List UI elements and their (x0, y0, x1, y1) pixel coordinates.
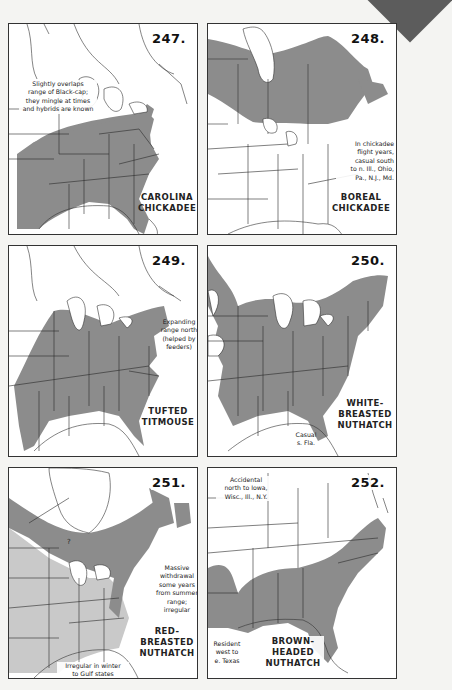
map-panel-white-breasted-nuthatch: 250. Casual s. Fla. WHITE- BREASTED NUTH… (207, 245, 397, 457)
title-line: BREASTED (334, 409, 396, 420)
note-line: Accidental (216, 476, 276, 484)
map-panel-brown-headed-nuthatch: 252. Accidental north to Iowa, Wisc., Il… (207, 467, 397, 679)
species-number: 248. (350, 31, 386, 46)
note-line: flight years, (336, 148, 394, 156)
note-line: casual south (336, 157, 394, 165)
species-number: 249. (151, 253, 187, 268)
note-line: withdrawal (155, 572, 198, 580)
note-line: Irregular in winter (57, 662, 129, 670)
title-line: HEADED (262, 647, 324, 658)
note-line: In chickadee (336, 140, 394, 148)
accidental-range-note: Accidental north to Iowa, Wisc., Ill., N… (216, 476, 276, 501)
note-line: they mingle at times (19, 97, 97, 105)
note-line: Pa., N.J., Md. (336, 174, 394, 182)
species-title: TUFTED TITMOUSE (139, 406, 197, 428)
note-line: range of Black-cap; (19, 88, 97, 96)
title-line: BREASTED (137, 637, 197, 648)
note-line: feeders) (159, 343, 198, 351)
note-line: s. Fla. (288, 439, 324, 447)
title-line: NUTHATCH (334, 420, 396, 431)
note-line: irregular (155, 606, 198, 614)
map-panel-red-breasted-nuthatch: 251. ? Massive withdrawal some years fro… (8, 467, 198, 679)
species-number: 247. (151, 31, 187, 46)
range-note: In chickadee flight years, casual south … (336, 140, 394, 182)
title-line: BOREAL (326, 192, 396, 203)
note-line: Wisc., Ill., N.Y. (216, 493, 276, 501)
title-line: BROWN- (262, 636, 324, 647)
note-line: west to (210, 648, 244, 656)
note-line: Resident (210, 640, 244, 648)
title-line: TUFTED (139, 406, 197, 417)
note-line: range; (155, 598, 198, 606)
species-title: WHITE- BREASTED NUTHATCH (334, 398, 396, 431)
title-line: CHICKADEE (137, 203, 197, 214)
note-line: Expanding (159, 318, 198, 326)
species-number: 252. (350, 475, 386, 490)
map-panel-carolina-chickadee: 247. Slightly overlaps range of Black-ca… (8, 23, 198, 235)
resident-range-note: Resident west to e. Texas (210, 640, 244, 665)
title-line: CHICKADEE (326, 203, 396, 214)
range-note: Massive withdrawal some years from summe… (155, 564, 198, 614)
species-title: BOREAL CHICKADEE (326, 192, 396, 214)
note-line: from summer (155, 589, 198, 597)
range-note: Slightly overlaps range of Black-cap; th… (19, 80, 97, 114)
title-line: NUTHATCH (137, 648, 197, 659)
species-title: RED- BREASTED NUTHATCH (137, 626, 197, 659)
note-line: Massive (155, 564, 198, 572)
range-note: Casual s. Fla. (288, 431, 324, 448)
map-panel-boreal-chickadee: 248. In chickadee flight years, casual s… (207, 23, 397, 235)
range-note: Expanding range north (helped by feeders… (159, 318, 198, 352)
note-line: Casual (288, 431, 324, 439)
title-line: NUTHATCH (262, 658, 324, 669)
title-line: TITMOUSE (139, 417, 197, 428)
note-line: some years (155, 581, 198, 589)
note-line: range north (159, 326, 198, 334)
map-panel-tufted-titmouse: 249. Expanding range north (helped by fe… (8, 245, 198, 457)
species-title: CAROLINA CHICKADEE (137, 192, 197, 214)
unknown-range-marker: ? (67, 538, 71, 546)
title-line: WHITE- (334, 398, 396, 409)
species-number: 251. (151, 475, 187, 490)
title-line: CAROLINA (137, 192, 197, 203)
species-number: 250. (350, 253, 386, 268)
note-line: (helped by (159, 335, 198, 343)
note-line: to Gulf states (57, 670, 129, 678)
note-line: Slightly overlaps (19, 80, 97, 88)
note-line: and hybrids are known (19, 105, 97, 113)
note-line: north to Iowa, (216, 484, 276, 492)
title-line: RED- (137, 626, 197, 637)
note-line: e. Texas (210, 657, 244, 665)
winter-range-note: Irregular in winter to Gulf states (57, 662, 129, 679)
note-line: to n. Ill., Ohio, (336, 165, 394, 173)
species-title: BROWN- HEADED NUTHATCH (262, 636, 324, 669)
